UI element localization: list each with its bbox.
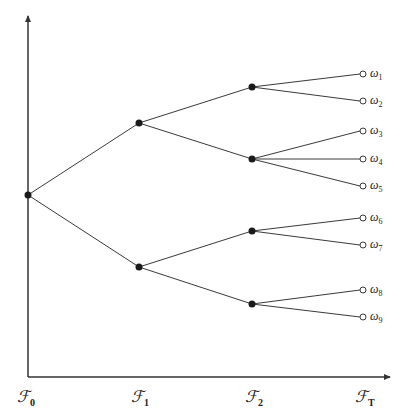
edges-level-T [252,74,360,317]
node-f2-4 [249,301,256,308]
leaf-node-7 [360,242,366,248]
leaf-node-9 [360,314,366,320]
root-node [25,192,32,199]
time-label-f1: ℱ1 [131,389,149,408]
outcome-label-4: ω4 [370,152,382,167]
outcome-label-1: ω1 [370,67,382,82]
edges-level-2 [139,87,252,304]
leaf-node-5 [360,183,366,189]
edges-level-1 [28,123,139,267]
leaf-node-1 [360,71,366,77]
leaf-node-6 [360,215,366,221]
node-f1-upper [136,120,143,127]
node-f2-3 [249,228,256,235]
outcome-label-6: ω6 [370,211,382,226]
time-label-f0: ℱ0 [17,389,35,408]
node-f2-1 [249,84,256,91]
node-f1-lower [136,264,143,271]
outcome-label-8: ω8 [370,283,382,298]
time-label-f2: ℱ2 [245,389,263,408]
outcome-label-3: ω3 [370,124,382,139]
time-label-fT: ℱT [355,389,375,408]
node-f2-2 [249,156,256,163]
leaf-node-8 [360,287,366,293]
event-tree-diagram [0,0,406,419]
outcome-label-9: ω9 [370,310,382,325]
leaf-node-4 [360,156,366,162]
outcome-label-5: ω5 [370,179,382,194]
outcome-label-2: ω2 [370,94,382,109]
leaf-node-3 [360,128,366,134]
leaf-node-2 [360,98,366,104]
outcome-label-7: ω7 [370,238,382,253]
